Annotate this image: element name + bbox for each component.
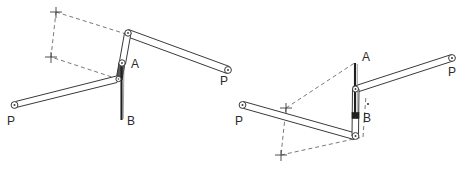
link-arm-lower-left-left-fig xyxy=(14,76,119,109)
pivot-p-left-left-fig xyxy=(11,102,18,109)
joint-bottom-right-fig xyxy=(352,133,359,140)
cross-marker-right-bottom xyxy=(275,150,287,161)
link-arm-lower-left-right-fig xyxy=(242,102,356,140)
label-pivot-p-left-left: P xyxy=(7,114,15,128)
label-point-a-right: A xyxy=(362,50,370,64)
linkage-diagram-svg: A B P P xyxy=(0,0,467,171)
label-pivot-p-right-right: P xyxy=(448,65,456,79)
label-pivot-p-right-left: P xyxy=(220,74,228,88)
link-bar-upper-right-left-fig xyxy=(127,30,230,74)
cross-marker-left-bottom xyxy=(45,52,57,63)
dashed-construction-quad-left xyxy=(51,12,126,79)
diagram-right: A B P P xyxy=(235,50,456,161)
joint-top-left-fig xyxy=(125,30,131,36)
pivot-p-right-left-fig xyxy=(225,67,232,74)
joint-a-left-fig xyxy=(119,60,125,66)
trace-dot-right-fig xyxy=(367,103,369,105)
diagram-canvas: A B P P xyxy=(0,0,467,171)
slider-block-b-right-fig xyxy=(352,113,359,119)
link-bar-top-to-a-left-fig xyxy=(119,33,131,64)
label-point-b-left: B xyxy=(127,114,135,128)
pivot-p-right-right-fig xyxy=(449,55,456,62)
joint-a-right-fig xyxy=(353,86,359,92)
pivot-p-left-right-fig xyxy=(239,102,246,109)
label-pivot-p-left-right: P xyxy=(235,114,243,128)
label-point-a-left: A xyxy=(131,57,139,71)
joint-mid-left-fig xyxy=(116,76,121,81)
diagram-left: A B P P xyxy=(7,7,231,128)
cross-marker-left-top xyxy=(50,7,62,18)
label-point-b-right: B xyxy=(363,111,371,125)
